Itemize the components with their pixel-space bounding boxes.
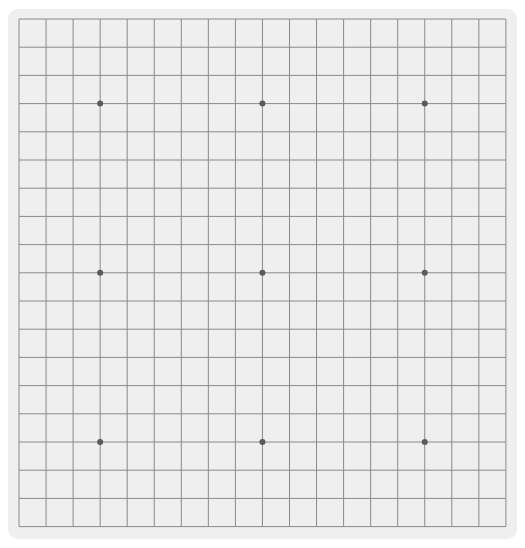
board-grid[interactable] [8, 9, 517, 539]
star-point-icon [259, 270, 265, 276]
star-point-icon [259, 101, 265, 107]
star-point-icon [422, 101, 428, 107]
star-point-icon [259, 439, 265, 445]
star-point-icon [97, 101, 103, 107]
star-point-icon [97, 439, 103, 445]
star-point-icon [422, 439, 428, 445]
go-board[interactable] [8, 9, 517, 539]
star-point-icon [422, 270, 428, 276]
star-point-icon [97, 270, 103, 276]
